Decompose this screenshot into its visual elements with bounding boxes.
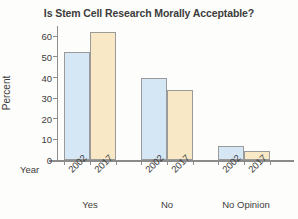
- x-tick-mark: [218, 161, 219, 165]
- bars-layer: [0, 0, 298, 160]
- bar-yes-2002[interactable]: [64, 52, 90, 160]
- bar-chart-figure: Is Stem Cell Research Morally Acceptable…: [0, 0, 298, 219]
- group-label-yes: Yes: [82, 199, 98, 210]
- x-tick-mark: [141, 161, 142, 165]
- bar-yes-2017[interactable]: [90, 32, 116, 160]
- x-tick-mark: [167, 161, 168, 165]
- x-tick-mark: [244, 161, 245, 165]
- bar-no-2017[interactable]: [167, 90, 193, 160]
- x-tick-mark: [90, 161, 91, 165]
- x-tick-mark: [64, 161, 65, 165]
- group-label-no: No: [161, 199, 173, 210]
- group-label-no-opinion: No Opinion: [222, 199, 270, 210]
- x-tick-mark: [270, 161, 271, 165]
- bar-no-2002[interactable]: [141, 78, 167, 160]
- x-tick-mark: [116, 161, 117, 165]
- x-tick-mark: [193, 161, 194, 165]
- x-axis-title: Year: [20, 164, 39, 175]
